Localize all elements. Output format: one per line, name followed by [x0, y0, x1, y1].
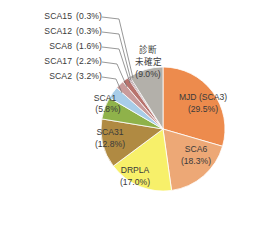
callout-name-sca12: SCA12 — [44, 26, 72, 36]
callout-name-sca2: SCA2 — [49, 71, 72, 81]
callout-pct-sca2: (3.2%) — [76, 71, 102, 81]
slice-label-undiagnosed-line2: 未確定 — [135, 56, 162, 67]
slice-label-drpla-line1: DRPLA — [121, 165, 150, 175]
callout-pct-sca15: (0.3%) — [76, 11, 102, 21]
callout-pct-sca12: (0.3%) — [76, 26, 102, 36]
slice-label-sca1-line1: SCA1 — [94, 93, 117, 103]
slice-label-sca31-line2: (12.8%) — [95, 139, 125, 149]
slice-label-undiagnosed-line1: 診断 — [139, 44, 157, 55]
pie-chart: MJD (SCA3) (29.5%) SCA6 (18.3%) DRPLA (1… — [0, 0, 260, 228]
callout-label-sca8: SCA8(1.6%) — [14, 41, 102, 51]
callout-pct-sca17: (2.2%) — [76, 56, 102, 66]
callout-label-sca17: SCA17(2.2%) — [6, 56, 102, 66]
callout-name-sca15: SCA15 — [44, 11, 72, 21]
slice-label-drpla-line2: (17.0%) — [120, 177, 150, 187]
slice-label-sca31-line1: SCA31 — [96, 127, 123, 137]
slice-label-sca6-line2: (18.3%) — [181, 156, 211, 166]
callout-label-sca12: SCA12(0.3%) — [14, 26, 102, 36]
callout-name-sca17: SCA17 — [44, 56, 72, 66]
callout-label-sca2: SCA2(3.2%) — [6, 71, 102, 81]
slice-label-undiagnosed-line3: (9.0%) — [135, 69, 160, 79]
callout-label-sca15: SCA15(0.3%) — [14, 11, 102, 21]
slice-label-mjd-line2: (29.5%) — [188, 104, 218, 114]
slice-label-sca6-line1: SCA6 — [185, 144, 208, 154]
callout-pct-sca8: (1.6%) — [76, 41, 102, 51]
callout-name-sca8: SCA8 — [49, 41, 72, 51]
slice-label-mjd-line1: MJD (SCA3) — [179, 92, 227, 102]
slice-label-sca1-line2: (5.8%) — [95, 104, 120, 114]
